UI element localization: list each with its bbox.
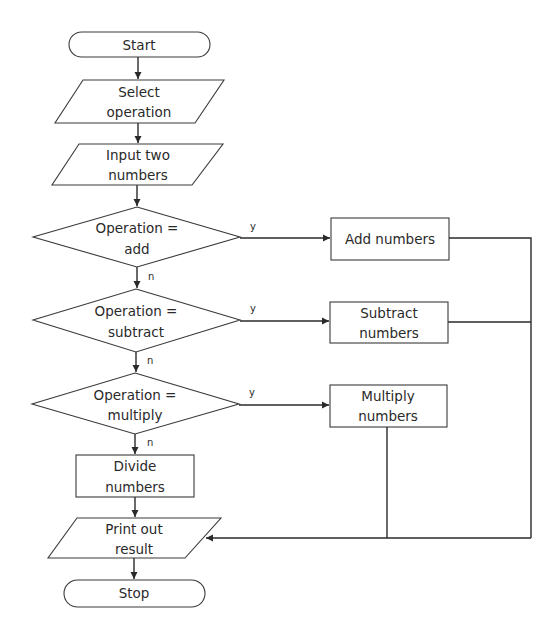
- node-multiply-numbers: Multiply numbers: [330, 385, 447, 427]
- node-print-line2: result: [115, 541, 153, 557]
- node-add-numbers: Add numbers: [331, 218, 449, 260]
- node-decision-sub-line2: subtract: [108, 324, 164, 340]
- node-decision-sub-line1: Operation =: [95, 303, 178, 319]
- node-select-line1: Select: [118, 84, 160, 100]
- edge-add-to-merge: [449, 238, 531, 538]
- node-div-line1: Divide: [114, 458, 157, 474]
- node-start: Start: [69, 32, 210, 57]
- node-print-line1: Print out: [105, 521, 162, 537]
- label-yes-mul: y: [249, 387, 255, 398]
- node-stop: Stop: [64, 580, 205, 607]
- node-decision-add-line1: Operation =: [96, 220, 179, 236]
- label-no-add: n: [148, 271, 154, 282]
- node-subtract-numbers: Subtract numbers: [330, 302, 448, 343]
- node-divide-numbers: Divide numbers: [76, 455, 194, 497]
- node-decision-multiply: Operation = multiply: [32, 373, 239, 434]
- node-decision-mul-line1: Operation =: [94, 387, 177, 403]
- node-sub-line1: Subtract: [360, 305, 418, 321]
- label-no-mul: n: [147, 437, 153, 448]
- flowchart: y n y n y n Start Select operation Input…: [0, 0, 553, 636]
- node-sub-line2: numbers: [359, 325, 419, 341]
- node-decision-mul-line2: multiply: [108, 407, 163, 423]
- node-div-line2: numbers: [105, 479, 165, 495]
- decision-shape: [33, 207, 240, 267]
- node-decision-add-line2: add: [124, 241, 149, 257]
- node-add-label: Add numbers: [345, 231, 435, 247]
- node-input-numbers: Input two numbers: [52, 144, 223, 185]
- label-yes-sub: y: [250, 303, 256, 314]
- node-stop-label: Stop: [119, 585, 150, 601]
- node-start-label: Start: [123, 37, 156, 53]
- label-no-sub: n: [147, 355, 153, 366]
- node-mul-line2: numbers: [358, 408, 418, 424]
- node-input-line2: numbers: [108, 167, 168, 183]
- node-select-operation: Select operation: [55, 80, 224, 123]
- node-print-result: Print out result: [48, 518, 221, 558]
- node-input-line1: Input two: [106, 147, 170, 163]
- label-yes-add: y: [250, 221, 256, 232]
- node-decision-subtract: Operation = subtract: [33, 289, 240, 352]
- decision-shape: [32, 373, 239, 434]
- node-mul-line1: Multiply: [361, 388, 414, 404]
- decision-shape: [33, 289, 240, 352]
- node-decision-add: Operation = add: [33, 207, 240, 267]
- node-select-line2: operation: [107, 104, 172, 120]
